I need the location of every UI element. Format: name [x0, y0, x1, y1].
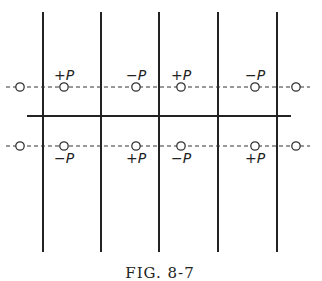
vertical-lines [43, 12, 277, 252]
circle-node-icon [132, 83, 140, 91]
charge-label: +P [54, 67, 75, 83]
circle-node-icon [177, 142, 185, 150]
circle-node-icon [177, 83, 185, 91]
circle-node-icon [132, 142, 140, 150]
charge-label: −P [245, 67, 266, 83]
circle-node-icon [292, 83, 300, 91]
charge-label: +P [245, 150, 266, 166]
circle-node-icon [251, 142, 259, 150]
charge-label: +P [171, 67, 192, 83]
circle-node-icon [60, 83, 68, 91]
circle-node-icon [251, 83, 259, 91]
figure-8-7-diagram: +P−P+P−P −P+P−P+P FIG. 8-7 [0, 0, 322, 281]
charge-label: −P [126, 67, 147, 83]
charge-label: −P [171, 150, 192, 166]
circle-node-icon [292, 142, 300, 150]
charge-label: +P [126, 150, 147, 166]
circle-node-icon [16, 83, 24, 91]
charge-label: −P [54, 150, 75, 166]
figure-caption: FIG. 8-7 [125, 264, 194, 281]
circle-node-icon [16, 142, 24, 150]
circle-node-icon [60, 142, 68, 150]
